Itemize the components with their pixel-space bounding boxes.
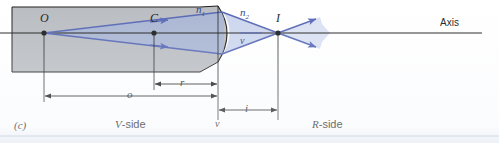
r-side-label: R-side — [312, 119, 343, 130]
image-distance-label: i — [245, 103, 248, 114]
v-side-label: V-side — [115, 119, 146, 130]
object-distance-label: o — [127, 89, 133, 100]
vertex-label: v — [240, 36, 244, 46]
axis-label: Axis — [440, 18, 459, 28]
radius-dimension-label: r — [180, 77, 184, 88]
optics-refraction-figure: O C I n1 n2 v Axis r o i (c) V-side R-si… — [0, 0, 499, 143]
diagram-canvas — [0, 0, 499, 143]
center-of-curvature-label: C — [150, 12, 158, 24]
panel-label: (c) — [14, 120, 26, 131]
n1-label: n1 — [196, 4, 205, 18]
object-point-label: O — [40, 12, 49, 24]
n2-label: n2 — [240, 7, 249, 21]
image-point-label: I — [276, 12, 280, 24]
vertex-label-bottom: v — [215, 119, 219, 129]
